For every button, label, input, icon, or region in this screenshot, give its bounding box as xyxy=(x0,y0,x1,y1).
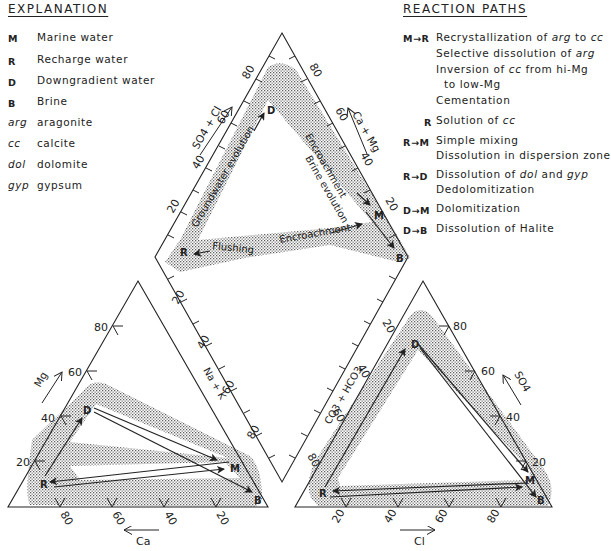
point-m: M xyxy=(230,463,240,474)
tick-label: 60 xyxy=(432,507,450,526)
tick-label: 40 xyxy=(381,507,399,526)
tick-label: 40 xyxy=(161,509,179,528)
tick-label: 60 xyxy=(481,365,495,378)
point-m: M xyxy=(374,210,384,221)
point-r: R xyxy=(180,247,188,258)
axis-label-ca-mg: Ca + Mg xyxy=(350,109,383,154)
point-b: B xyxy=(396,253,404,264)
axis-label-mg: Mg xyxy=(31,369,49,389)
cation-triangle: 80 60 40 20 80 60 40 20 Mg Ca D M B R xyxy=(8,281,268,548)
tick-label: 80 xyxy=(94,321,108,334)
tick-label: 20 xyxy=(16,456,30,469)
tick-label: 40 xyxy=(506,411,520,424)
point-b: B xyxy=(537,495,545,506)
tick-label: 60 xyxy=(332,105,350,124)
tick-label: 60 xyxy=(68,366,82,379)
point-r: R xyxy=(40,479,48,490)
cation-band xyxy=(27,382,262,507)
tick-label: 80 xyxy=(244,423,262,442)
tick-label: 80 xyxy=(57,509,75,528)
tick-label: 20 xyxy=(169,288,187,307)
axis-label-so4: SO4 xyxy=(512,369,533,394)
tick-label: 80 xyxy=(453,320,467,333)
tick-label: 20 xyxy=(382,195,400,214)
tick-label: 20 xyxy=(213,509,231,528)
point-d: D xyxy=(267,105,275,116)
tick-label: 80 xyxy=(239,63,257,82)
tick-label: 40 xyxy=(194,333,212,352)
tick-label: 40 xyxy=(41,412,55,425)
point-m: M xyxy=(525,475,535,486)
axis-label-cl: Cl xyxy=(414,535,425,548)
tick-label: 20 xyxy=(379,317,397,336)
point-d: D xyxy=(83,405,91,416)
tick-label: 60 xyxy=(109,509,127,528)
tick-label: 20 xyxy=(532,456,546,469)
tick-label: 20 xyxy=(329,507,347,526)
tick-label: 80 xyxy=(484,507,502,526)
point-d: D xyxy=(411,339,419,350)
anion-band xyxy=(309,310,552,506)
point-b: B xyxy=(254,495,262,506)
point-r: R xyxy=(319,488,327,499)
tick-label: 80 xyxy=(306,61,324,80)
axis-label-ca: Ca xyxy=(136,535,150,548)
